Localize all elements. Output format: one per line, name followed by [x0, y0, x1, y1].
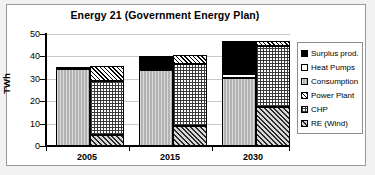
x-tick-mark-right	[289, 147, 290, 151]
diagonal-hatch-swatch-icon	[301, 120, 308, 127]
solid-black-swatch-icon	[301, 50, 308, 57]
y-tick-label-10: 10	[16, 120, 40, 129]
y-tick-mark-50	[40, 34, 45, 35]
y-tick-mark-40	[40, 56, 45, 57]
y-tick-label-20: 20	[16, 97, 40, 106]
grid-swatch-icon	[301, 106, 308, 113]
y-tick-label-50: 50	[16, 30, 40, 39]
legend-item-surplus-prod[interactable]: Surplus prod.	[301, 46, 359, 60]
bar-2005-supply[interactable]	[90, 34, 124, 146]
legend-item-consumption[interactable]: Consumption	[301, 74, 359, 88]
bar-2015-supply[interactable]	[173, 34, 207, 146]
y-tick-labels: 50 40 30 20 10 0	[10, 0, 40, 175]
chart-figure: Energy 21 (Government Energy Plan)	[0, 0, 375, 175]
segment-chp-2015	[173, 64, 207, 126]
chart-title: Energy 21 (Government Energy Plan)	[40, 9, 290, 21]
segment-surplus-2005	[56, 67, 90, 69]
segment-re-wind-2015	[173, 126, 207, 146]
segment-re-wind-2030	[256, 107, 290, 146]
segment-power-plant-2030	[256, 41, 290, 47]
y-tick-mark-20	[40, 101, 45, 102]
segment-consumption-2005	[56, 69, 90, 146]
segment-chp-2005	[90, 81, 124, 135]
y-tick-label-0: 0	[16, 142, 40, 151]
x-tick-label-2015: 2015	[140, 152, 200, 162]
legend-label: RE (Wind)	[311, 119, 348, 128]
legend-label: Power Plant	[311, 91, 354, 100]
x-tick-mark-2	[212, 147, 213, 151]
y-tick-mark-30	[40, 79, 45, 80]
segment-power-plant-2015	[173, 55, 207, 64]
legend-item-power-plant[interactable]: Power Plant	[301, 88, 359, 102]
y-axis-line	[45, 33, 47, 147]
legend-label: Consumption	[311, 77, 358, 86]
legend-item-heat-pumps[interactable]: Heat Pumps	[301, 60, 359, 74]
cross-hatch-swatch-icon	[301, 92, 308, 99]
legend-item-re-wind[interactable]: RE (Wind)	[301, 116, 359, 130]
y-tick-label-30: 30	[16, 75, 40, 84]
segment-surplus-2015	[139, 56, 173, 69]
y-tick-label-40: 40	[16, 52, 40, 61]
bar-2015-demand[interactable]	[139, 34, 173, 146]
legend: Surplus prod. Heat Pumps Consumption Pow…	[297, 42, 363, 134]
x-tick-label-2005: 2005	[57, 152, 117, 162]
bar-2030-demand[interactable]	[222, 34, 256, 146]
legend-label: Surplus prod.	[311, 49, 359, 58]
segment-consumption-2015	[139, 70, 173, 146]
segment-heat-pumps-2030	[222, 74, 256, 77]
solid-white-swatch-icon	[301, 64, 308, 71]
x-tick-mark-1	[129, 147, 130, 151]
legend-item-chp[interactable]: CHP	[301, 102, 359, 116]
bar-2005-demand[interactable]	[56, 34, 90, 146]
x-axis-line	[45, 145, 290, 147]
x-tick-mark-left	[46, 147, 47, 151]
legend-label: CHP	[311, 105, 328, 114]
vertical-fine-gray-swatch-icon	[301, 78, 308, 85]
plot-area	[46, 34, 290, 146]
segment-chp-2030	[256, 46, 290, 107]
y-tick-mark-10	[40, 124, 45, 125]
legend-label: Heat Pumps	[311, 63, 355, 72]
y-tick-mark-0	[40, 146, 45, 147]
segment-surplus-2030	[222, 41, 256, 75]
x-tick-label-2030: 2030	[223, 152, 283, 162]
bar-2030-supply[interactable]	[256, 34, 290, 146]
y-axis-label: TWh	[1, 64, 12, 104]
segment-consumption-2030	[222, 78, 256, 146]
segment-power-plant-2005	[90, 66, 124, 81]
